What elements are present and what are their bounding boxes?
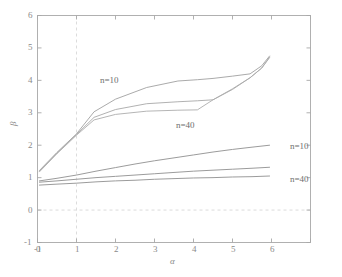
ytick-label-0: 0 bbox=[28, 206, 33, 215]
annotation-upper-n40: n=40 bbox=[176, 121, 195, 130]
y-axis-title: β bbox=[9, 122, 18, 126]
ytick-label-3: 3 bbox=[28, 108, 33, 117]
series-line-upper-n40 bbox=[39, 58, 269, 172]
tick-marks bbox=[38, 16, 311, 243]
ytick-label--1: -1 bbox=[24, 238, 32, 247]
series-line-upper-n10 bbox=[39, 56, 269, 170]
xtick-label-1: 1 bbox=[75, 245, 80, 254]
xtick-label-0: 0 bbox=[36, 245, 41, 254]
xtick-label-5: 5 bbox=[231, 245, 236, 254]
annotation-lower-n10: n=10 bbox=[290, 142, 309, 151]
axis-frame bbox=[38, 16, 311, 243]
series-line-lower-n20 bbox=[39, 167, 269, 182]
xtick-label-3: 3 bbox=[153, 245, 158, 254]
ytick-label-6: 6 bbox=[28, 11, 33, 20]
series-line-upper-n20 bbox=[39, 57, 269, 171]
x-axis-title: α bbox=[170, 257, 175, 266]
line-chart-plot bbox=[0, 0, 342, 277]
figure-container: -1 0 1 2 3 4 5 6 -1 0 1 2 3 4 5 6 α β n=… bbox=[0, 0, 342, 277]
xtick-label-6: 6 bbox=[270, 245, 275, 254]
plot-border bbox=[38, 16, 311, 243]
annotation-upper-n10: n=10 bbox=[100, 76, 119, 85]
xtick-label-2: 2 bbox=[114, 245, 119, 254]
ytick-label-2: 2 bbox=[28, 141, 33, 150]
series-line-lower-n40 bbox=[39, 176, 269, 185]
ytick-label-1: 1 bbox=[28, 173, 33, 182]
series-line-lower-n10 bbox=[39, 145, 269, 181]
annotation-lower-n40: n=40 bbox=[290, 175, 309, 184]
xtick-label-4: 4 bbox=[192, 245, 197, 254]
reference-lines bbox=[38, 16, 311, 243]
ytick-label-4: 4 bbox=[28, 76, 33, 85]
ytick-label-5: 5 bbox=[28, 43, 33, 52]
series-paths bbox=[39, 56, 269, 185]
